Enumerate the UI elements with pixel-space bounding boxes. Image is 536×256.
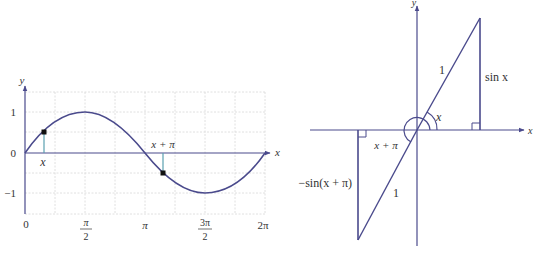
- hyp-upper-label: 1: [439, 63, 445, 77]
- x-tick-pi: π: [142, 219, 148, 231]
- x-tick-two-pi: 2π: [257, 219, 269, 231]
- sin-x-text: sin x: [485, 70, 508, 84]
- neg-sin-label: −sin(x + π): [298, 176, 352, 190]
- x-tick-three-half-pi-num: 3π: [200, 217, 210, 228]
- x-axis-label: x: [274, 146, 280, 158]
- x-tick-0: 0: [23, 218, 29, 230]
- hyp-lower-label: 1: [393, 186, 399, 200]
- unit-triangle-diagram: y x 1 sin x x x + π −sin(x + π) 1: [298, 0, 533, 246]
- figure: y x 1 0 −1 x x + π 0 π 2 π 3π 2 2π y x: [0, 0, 536, 256]
- right-angle-lower: [358, 130, 366, 137]
- x-tick-three-half-pi-den: 2: [203, 231, 208, 242]
- point-x-plus-pi: [161, 171, 166, 176]
- angle-x-plus-pi-label: x + π: [373, 139, 398, 151]
- sine-graph: y x 1 0 −1 x x + π 0 π 2 π 3π 2 2π: [4, 74, 280, 242]
- angle-x-label: x: [435, 110, 442, 124]
- point-x: [42, 130, 47, 135]
- x-tick-half-pi-num: π: [83, 217, 89, 228]
- hypotenuse-upper: [417, 18, 480, 130]
- right-angle-upper: [472, 123, 480, 130]
- label-x: x: [39, 155, 46, 169]
- y-axis-label: y: [19, 74, 25, 86]
- x-tick-half-pi-den: 2: [84, 231, 89, 242]
- y-tick-neg1: −1: [4, 187, 16, 199]
- label-x-plus-pi: x + π: [150, 138, 175, 150]
- sin-x-label: sin x: [485, 70, 508, 84]
- x-axis-label: x: [527, 125, 533, 136]
- y-tick-1: 1: [11, 106, 17, 118]
- y-axis-label: y: [411, 0, 417, 8]
- y-tick-0: 0: [11, 147, 17, 159]
